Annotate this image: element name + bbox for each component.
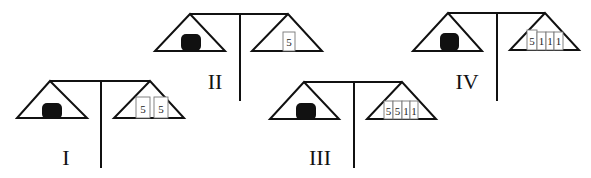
scale-label: III xyxy=(309,145,331,170)
black-object xyxy=(440,33,459,51)
weight-value: 1 xyxy=(539,35,545,47)
weight-value: 5 xyxy=(395,105,401,117)
weight-value: 5 xyxy=(286,36,292,48)
weight: 1 xyxy=(554,32,563,50)
weight-value: 5 xyxy=(140,103,146,115)
scale-i: 5 5 I xyxy=(17,81,184,170)
black-object xyxy=(42,103,62,119)
weight: 5 xyxy=(154,97,168,118)
scale-iv: 5 1 1 1 IV xyxy=(413,13,579,101)
weight: 5 xyxy=(384,101,393,119)
weight: 5 xyxy=(393,101,402,119)
scale-ii: 5 II xyxy=(155,14,322,101)
black-object xyxy=(181,34,201,51)
scale-label: II xyxy=(208,69,223,94)
weight: 5 xyxy=(527,30,537,50)
balance-scales-figure: 5 5 I 5 II 5 5 xyxy=(0,0,591,178)
scale-label: IV xyxy=(455,69,478,94)
weight: 1 xyxy=(410,101,418,119)
weight-value: 5 xyxy=(158,103,164,115)
scale-iii: 5 5 1 1 III xyxy=(270,82,436,170)
weight: 1 xyxy=(537,32,546,50)
black-object xyxy=(296,103,316,120)
weight-value: 1 xyxy=(403,105,409,117)
weight-value: 1 xyxy=(411,105,417,117)
scale-label: I xyxy=(62,145,69,170)
weight-value: 5 xyxy=(529,35,535,47)
weight: 1 xyxy=(546,32,554,50)
weight: 1 xyxy=(402,101,410,119)
weight-value: 1 xyxy=(556,35,562,47)
weight-value: 5 xyxy=(386,105,392,117)
weight: 5 xyxy=(136,97,150,118)
weight-value: 1 xyxy=(547,35,553,47)
weight: 5 xyxy=(283,32,295,51)
